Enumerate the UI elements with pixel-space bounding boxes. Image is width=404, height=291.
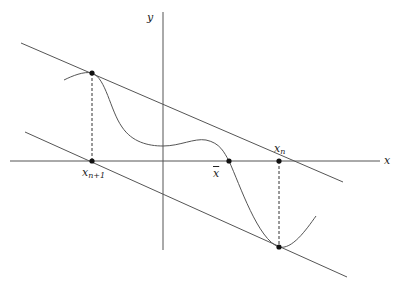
newton-method-diagram [0,0,404,291]
point-curve-x-n [276,244,281,249]
point-axis-x-n1 [89,158,94,163]
x-n-label: xn [274,143,285,156]
x-n1-label: xn+1 [82,167,105,180]
lower-tangent-line [25,132,347,277]
point-curve-x-n1 [89,70,94,75]
point-root-x-bar [226,158,231,163]
y-axis-label: y [147,12,153,23]
x-n-subscript: n [280,147,285,156]
x-bar-text: x [213,167,219,180]
x-n1-subscript: n+1 [88,171,105,180]
x-bar-label: x [213,168,219,179]
point-axis-x-n [276,158,281,163]
x-axis-label: x [384,155,390,166]
